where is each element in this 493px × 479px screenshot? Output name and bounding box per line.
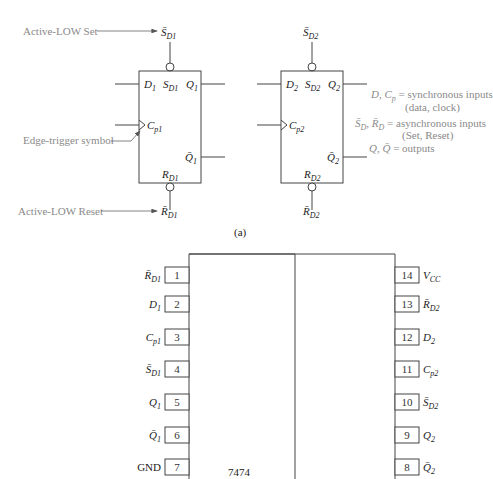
pin-label: R̄D1 [143,269,161,284]
ic-pin-9: 9Q2 [395,427,435,444]
ic-pin-4: 4S̄D1 [146,361,189,378]
ic-pin-layer: 1R̄D12D13Cp14S̄D15Q16Q̄17GND14VCC13R̄D21… [0,0,493,479]
pin-number: 12 [402,331,413,343]
pin-label: Cp2 [423,363,438,378]
pin-number: 6 [174,429,180,441]
pin-number: 7 [174,461,180,473]
pin-label: VCC [423,269,441,284]
ic-pin-5: 5Q1 [149,394,189,411]
pin-number: 2 [174,298,180,310]
ic-pin-11: 11Cp2 [395,361,438,378]
pin-label: Q̄2 [423,461,435,476]
pin-number: 13 [402,298,414,310]
pin-label: S̄D1 [146,363,161,378]
pin-label: D1 [148,298,161,313]
pin-number: 1 [174,269,180,281]
pin-number: 5 [174,396,180,408]
pin-label: S̄D2 [423,396,438,411]
pin-label: GND [137,461,161,473]
ic-body-outline [189,254,395,479]
ic-pin-1: 1R̄D1 [143,267,189,284]
ic-pin-7: 7GND [137,459,189,475]
pin-number: 10 [402,396,414,408]
pin-label: Q1 [149,396,161,411]
pin-number: 3 [174,331,180,343]
ic-pin-14: 14VCC [395,267,441,284]
ic-pin-6: 6Q̄1 [149,427,189,444]
pin-label: Q̄1 [149,429,161,444]
pin-label: Q2 [423,429,435,444]
pin-number: 9 [404,429,410,441]
ic-pin-10: 10S̄D2 [395,394,438,411]
pin-number: 11 [402,363,413,375]
pin-number: 4 [174,363,180,375]
ic-pin-13: 13R̄D2 [395,296,440,313]
pin-label: D2 [422,331,435,346]
pin-label: Cp1 [146,331,161,346]
ic-pin-2: 2D1 [148,296,189,313]
ic-pin-8: 8Q̄2 [395,459,435,476]
pin-number: 14 [402,269,414,281]
pin-label: R̄D2 [422,298,440,313]
pin-number: 8 [404,461,410,473]
ic-pin-12: 12D2 [395,329,435,346]
ic-pin-3: 3Cp1 [146,329,189,346]
